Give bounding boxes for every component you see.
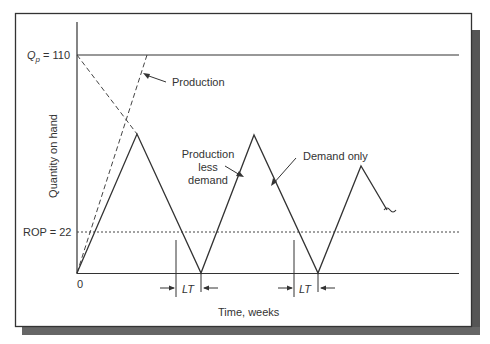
qp-symbol: Q (27, 49, 36, 61)
qp-value: = 110 (40, 49, 70, 61)
chart-frame (16, 14, 472, 327)
chart-figure (0, 0, 490, 344)
x-axis-label: Time, weeks (218, 306, 279, 318)
rop-label: ROP = 22 (23, 226, 71, 238)
pld-label-line2: less (178, 161, 238, 173)
production-label: Production (172, 76, 225, 88)
lt1-label: LT (182, 283, 194, 295)
pld-label-line1: Production (178, 148, 238, 160)
frame-shadow-bottom (22, 327, 480, 335)
pld-label-line3: demand (178, 174, 238, 186)
qp-label: Qp = 110 (27, 49, 70, 66)
y-axis-label: Quantity on hand (47, 106, 59, 206)
frame-shadow-right (472, 30, 480, 335)
origin-label: 0 (77, 278, 83, 290)
demand-only-label: Demand only (303, 150, 368, 162)
lt2-label: LT (299, 283, 311, 295)
